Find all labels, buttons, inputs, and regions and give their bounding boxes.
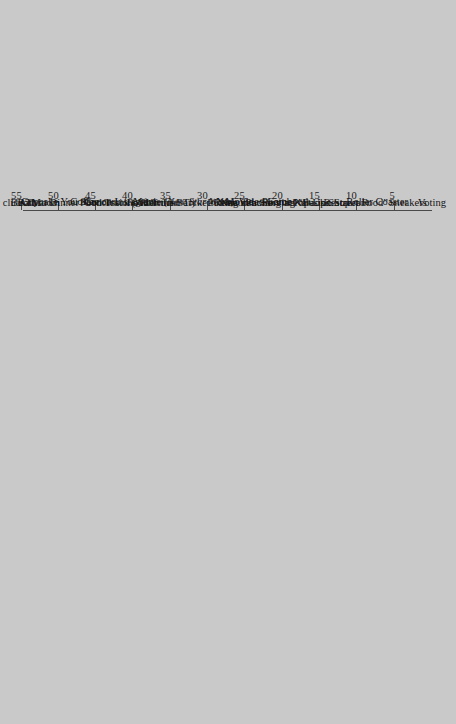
bar-row[interactable]: New Video Game: [286, 210, 298, 285]
category-label: Any club: [0, 197, 21, 208]
bar-row[interactable]: Voting: [440, 210, 452, 695]
bar-row[interactable]: Cupcake You Saw on Instagram: [151, 210, 163, 247]
plot-area: 51015202530354045505560Unlimited VotingS…: [0, 0, 456, 724]
bar-chart: 51015202530354045505560Unlimited VotingS…: [0, 0, 456, 724]
bar-row[interactable]: Any club: [15, 210, 27, 359]
bar-row[interactable]: Restaurant: [363, 210, 375, 464]
bar-row[interactable]: Concert: [112, 210, 124, 538]
bar-row[interactable]: New iPhone: [266, 210, 278, 240]
bar-row[interactable]: Putting in a Song at Karaoke: [324, 210, 336, 322]
bar-row[interactable]: Concessions: [131, 210, 143, 322]
bar-row[interactable]: Coffee: [93, 210, 105, 270]
bar-row[interactable]: Photobooth: [305, 210, 317, 300]
bar-row[interactable]: Bathroom: [54, 210, 66, 322]
category-label: ATM: [18, 197, 40, 208]
bar-row[interactable]: Food Truck (After the Bar): [189, 210, 201, 568]
bar-row[interactable]: Movie: [247, 210, 259, 695]
bar-row[interactable]: Pop-Up Shop: [344, 210, 356, 285]
bar-row[interactable]: ATM: [35, 210, 47, 285]
bar-row[interactable]: Roller Coaster: [402, 210, 414, 598]
chart-figure: 51015202530354045505560Unlimited VotingS…: [0, 0, 456, 724]
bar-row[interactable]: Sneakers: [421, 210, 433, 285]
bar-row[interactable]: Movie (New Star Wars): [228, 210, 240, 322]
bar-row[interactable]: Booth at Dinner: [73, 210, 85, 255]
bar-row[interactable]: Hamilton Tickets: [209, 210, 221, 322]
bar-row[interactable]: Restaurant Serving “Fusion Street Food”: [382, 210, 394, 247]
bar-row[interactable]: Food Truck: [170, 210, 182, 322]
